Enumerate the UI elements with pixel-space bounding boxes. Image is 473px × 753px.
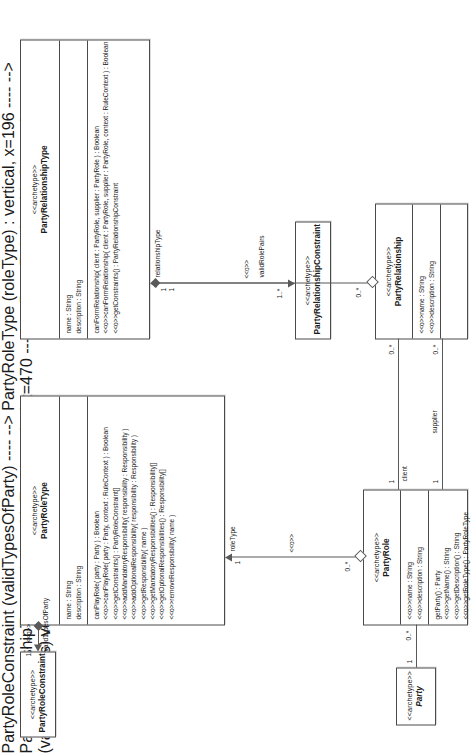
attributes-compartment: <<o>>name : String <<o>>description : St… (401, 490, 429, 624)
arrow-head-constraint (288, 279, 295, 287)
class-stereotype: <<archetype>> (30, 44, 39, 334)
operation: <<o>>getName() : String (442, 494, 451, 619)
class-name: PartyRoleConstraint (38, 656, 48, 732)
assoc-role-label-supplier: supplier (431, 410, 438, 433)
class-party-relationship[interactable]: <<archetype>> PartyRelationship <<o>>nam… (375, 203, 468, 339)
attribute: <<o>>name : String (417, 208, 426, 333)
operation: <<o>>addMandatoryResponsibility( respons… (120, 400, 129, 619)
assoc-line-client (398, 338, 399, 489)
assoc-line-valid-role-pairs (157, 282, 289, 283)
multiplicity-target: 0..* (432, 344, 439, 354)
arrow-head (34, 644, 42, 651)
class-header: <<archetype>> PartyRole (364, 490, 401, 624)
assoc-stereotype-label: <<o>> (288, 534, 295, 552)
operation: getParty() : Party (433, 494, 442, 619)
class-name: Party (415, 672, 425, 720)
class-name: PartyRelationshipType (40, 44, 50, 334)
class-name: PartyRoleType (40, 400, 50, 620)
attributes-compartment: <<o>>name : String <<o>>description : St… (413, 204, 441, 338)
operation: <<o>>getConstraints() : PartyRoleConstra… (111, 400, 120, 619)
operation: <<o>>getOptionalResponsibilities() : Res… (157, 400, 166, 619)
attribute: name : String (64, 400, 73, 619)
operation: <<o>>getResponsibility( name ) (139, 400, 148, 619)
class-party-relationship-constraint[interactable]: <<archetype>> PartyRelationshipConstrain… (295, 221, 331, 339)
attributes-compartment: name : String description : String (60, 40, 88, 338)
attribute: description : String (74, 400, 83, 619)
class-header: <<archetype>> PartyRoleConstraint (21, 652, 54, 736)
class-header: <<archetype>> PartyRelationshipType (21, 40, 60, 338)
assoc-role-label: validRolePairs (258, 235, 265, 277)
assoc-role-label-client: client (401, 466, 408, 481)
arrow-head (225, 553, 232, 561)
attribute: <<o>>description : String (427, 208, 436, 333)
attribute: <<o>>description : String (415, 494, 424, 619)
operation: <<o>>canFormRelationship( client : Party… (101, 44, 110, 333)
operation: canFormRelationship( client : PartyRole,… (92, 44, 101, 333)
assoc-line-party-party-role (416, 624, 417, 667)
class-party-relationship-type[interactable]: <<archetype>> PartyRelationshipType name… (20, 39, 150, 339)
class-stereotype: <<archetype>> (384, 208, 393, 334)
class-stereotype: <<archetype>> (30, 400, 39, 620)
class-party[interactable]: <<archetype>> Party (396, 667, 436, 725)
assoc-line-role-type (232, 556, 360, 557)
multiplicity-target: 1 (160, 287, 167, 291)
operation: <<o>>getDescription() : String (452, 494, 461, 619)
multiplicity-target: 1 (234, 560, 241, 564)
multiplicity-source: 1 (42, 633, 49, 637)
attributes-compartment: name : String description : String (60, 396, 88, 624)
assoc-line-supplier (442, 338, 443, 489)
operation: <<o>>getConstraints() : PartyRelationshi… (111, 44, 120, 333)
assoc-role-label: relationshipType (154, 229, 161, 277)
operation: canPlayRole( party : Party ) : Boolean (92, 400, 101, 619)
class-header: <<archetype>> PartyRoleType (21, 396, 60, 624)
operations-compartment (441, 204, 466, 338)
attribute: name : String (64, 44, 73, 333)
attribute: description : String (74, 44, 83, 333)
class-stereotype: <<archetype>> (372, 494, 381, 620)
multiplicity-source: 0..* (344, 561, 351, 571)
multiplicity-source: 1 (432, 479, 439, 483)
assoc-stereotype-label: <<o>> (25, 624, 32, 642)
class-stereotype: <<archetype>> (28, 656, 37, 732)
operations-compartment: getParty() : Party <<o>>getName() : Stri… (429, 490, 473, 624)
multiplicity-source: 1 (168, 287, 175, 291)
operations-compartment: canPlayRole( party : Party ) : Boolean <… (88, 396, 179, 624)
class-party-role-type[interactable]: <<archetype>> PartyRoleType name : Strin… (20, 395, 225, 625)
class-header: <<archetype>> PartyRelationshipConstrain… (296, 222, 329, 338)
multiplicity-target: 0..* (388, 344, 395, 354)
class-header: <<archetype>> PartyRelationship (376, 204, 413, 338)
operation: <<o>>canPlayRole( party : Party, context… (101, 400, 110, 619)
multiplicity-source: 1 (406, 659, 413, 663)
class-name: PartyRelationshipConstraint (313, 226, 323, 334)
operation: <<o>>addOptionalResponsibility( responsi… (129, 400, 138, 619)
class-name: PartyRole (382, 494, 392, 620)
class-party-role[interactable]: <<archetype>> PartyRole <<o>>name : Stri… (363, 489, 468, 625)
class-stereotype: <<archetype>> (405, 672, 414, 720)
operation: <<o>>getMandatoryResponsibilities() : Re… (148, 400, 157, 619)
multiplicity-target: 1..* (25, 646, 32, 656)
attribute: <<o>>name : String (405, 494, 414, 619)
multiplicity-source: 0..* (355, 287, 362, 297)
multiplicity-source: 1 (388, 479, 395, 483)
class-header: <<archetype>> Party (397, 668, 431, 724)
class-name: PartyRelationship (394, 208, 404, 334)
assoc-role-label: roleType (229, 526, 236, 551)
class-stereotype: <<archetype>> (303, 226, 312, 334)
assoc-stereotype-label: <<o>> (243, 260, 250, 278)
class-party-role-constraint[interactable]: <<archetype>> PartyRoleConstraint (20, 651, 56, 737)
operations-compartment: canFormRelationship( client : PartyRole,… (88, 40, 123, 338)
assoc-role-label: validTypesOfParty (42, 597, 49, 651)
operation: <<o>>getRoleType() : PartyRoleType (461, 494, 470, 619)
multiplicity-target: 0..* (405, 630, 412, 640)
multiplicity-target: 1..* (276, 288, 283, 298)
operation: <<o>>removeResponsibility( name ) (167, 400, 176, 619)
